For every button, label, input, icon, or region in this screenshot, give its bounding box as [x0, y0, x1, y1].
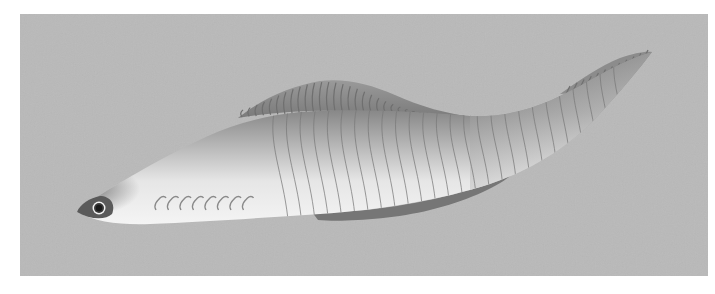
fish-illustration	[0, 0, 715, 294]
eye-icon	[93, 202, 106, 215]
